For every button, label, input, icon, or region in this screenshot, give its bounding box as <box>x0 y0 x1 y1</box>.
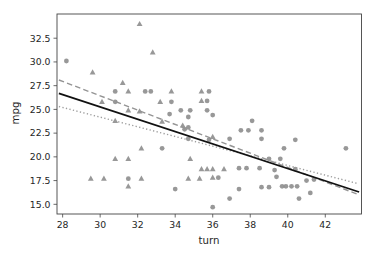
scatter-point-circle <box>344 146 349 151</box>
x-tick-label: 30 <box>94 219 106 230</box>
scatter-point-triangle <box>210 175 216 180</box>
y-tick-label: 32.5 <box>30 33 51 44</box>
scatter-point-circle <box>148 89 153 94</box>
scatter-point-circle <box>207 89 212 94</box>
x-tick-label: 36 <box>207 219 219 230</box>
scatter-point-triangle <box>199 98 205 103</box>
scatter-point-circle <box>64 59 69 64</box>
scatter-point-triangle <box>101 176 107 181</box>
scatter-point-circle <box>237 166 242 171</box>
scatter-point-circle <box>186 125 191 130</box>
scatter-point-circle <box>257 166 262 171</box>
scatter-point-circle <box>237 187 242 192</box>
scatter-point-circle <box>216 175 221 180</box>
scatter-point-triangle <box>137 108 143 113</box>
scatter-point-triangle <box>199 88 205 93</box>
scatter-point-circle <box>259 136 264 141</box>
y-tick-label: 25.0 <box>30 104 51 115</box>
dotted-fit-line <box>59 107 357 184</box>
y-axis-label: mpg <box>11 102 21 125</box>
y-tick-label: 22.5 <box>30 127 51 138</box>
scatter-point-circle <box>205 99 210 104</box>
scatter-point-triangle <box>210 134 216 139</box>
y-tick-label: 20.0 <box>30 151 51 162</box>
scatter-point-circle <box>304 178 309 183</box>
scatter-point-circle <box>293 137 298 142</box>
scatter-point-circle <box>284 184 289 189</box>
scatter-point-circle <box>188 108 193 113</box>
scatter-point-triangle <box>204 166 210 171</box>
scatter-point-triangle <box>157 99 163 104</box>
scatter-point-circle <box>143 89 148 94</box>
scatter-point-triangle <box>120 80 126 85</box>
y-tick-label: 15.0 <box>30 199 51 210</box>
scatter-point-circle <box>113 89 118 94</box>
x-axis-label: turn <box>57 236 361 246</box>
scatter-point-circle <box>278 156 283 161</box>
y-tick-label: 17.5 <box>30 175 51 186</box>
scatter-point-triangle <box>199 166 205 171</box>
scatter-point-triangle <box>125 107 131 112</box>
x-tick-label: 28 <box>57 219 69 230</box>
scatter-point-triangle <box>125 156 131 161</box>
scatter-point-triangle <box>125 88 131 93</box>
scatter-point-circle <box>210 113 215 118</box>
scatter-point-triangle <box>139 145 145 150</box>
scatter-point-circle <box>173 187 178 192</box>
scatter-point-triangle <box>125 183 131 188</box>
scatter-point-triangle <box>185 176 191 181</box>
scatter-point-circle <box>186 115 191 120</box>
scatter-point-circle <box>297 196 302 201</box>
scatter-point-triangle <box>187 156 193 161</box>
scatter-point-triangle <box>150 49 156 54</box>
scatter-point-circle <box>308 191 313 196</box>
scatter-point-circle <box>167 112 172 117</box>
scatter-point-circle <box>259 185 264 190</box>
y-tick-label: 30.0 <box>30 56 51 67</box>
scatter-point-circle <box>244 166 249 171</box>
plot-border <box>57 14 362 214</box>
scatter-point-triangle <box>221 166 227 171</box>
scatter-point-circle <box>227 136 232 141</box>
scatter-point-circle <box>210 205 215 210</box>
scatter-point-circle <box>295 184 300 189</box>
scatter-point-circle <box>289 184 294 189</box>
scatter-point-triangle <box>139 176 145 181</box>
scatter-point-circle <box>272 168 277 173</box>
y-tick-label: 27.5 <box>30 80 51 91</box>
scatter-point-circle <box>259 128 264 133</box>
x-tick-label: 40 <box>282 219 294 230</box>
scatter-point-circle <box>205 108 210 113</box>
scatter-plot-canvas: 283032343638404215.017.520.022.525.027.5… <box>0 0 375 258</box>
scatter-point-circle <box>239 128 244 133</box>
scatter-point-circle <box>282 146 287 151</box>
scatter-point-circle <box>250 118 255 123</box>
scatter-point-circle <box>274 174 279 179</box>
scatter-point-circle <box>169 99 174 104</box>
scatter-point-triangle <box>90 69 96 74</box>
scatter-point-triangle <box>99 99 105 104</box>
scatter-point-triangle <box>137 21 143 26</box>
scatter-point-triangle <box>88 176 94 181</box>
scatter-point-circle <box>246 128 251 133</box>
scatter-point-circle <box>178 108 183 113</box>
x-tick-label: 34 <box>169 219 181 230</box>
scatter-figure: 283032343638404215.017.520.022.525.027.5… <box>0 0 375 258</box>
scatter-point-triangle <box>197 176 203 181</box>
scatter-point-circle <box>160 146 165 151</box>
scatter-point-circle <box>267 185 272 190</box>
scatter-point-triangle <box>112 156 118 161</box>
scatter-point-triangle <box>169 88 175 93</box>
x-tick-label: 42 <box>319 219 331 230</box>
scatter-point-triangle <box>210 166 216 171</box>
x-tick-label: 32 <box>132 219 144 230</box>
x-tick-label: 38 <box>244 219 256 230</box>
scatter-point-circle <box>227 196 232 201</box>
scatter-point-circle <box>126 176 131 181</box>
